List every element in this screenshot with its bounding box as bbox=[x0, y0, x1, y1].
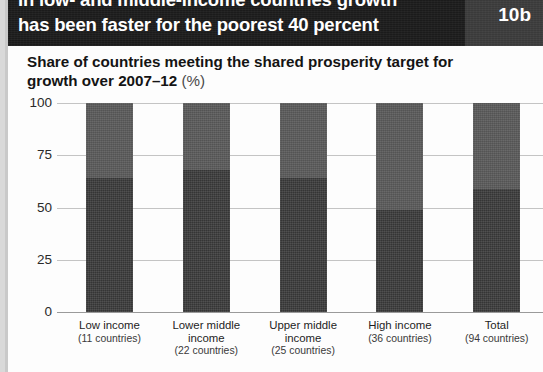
x-axis-label-total: Total(94 countries) bbox=[445, 319, 543, 345]
bar-segment-not-meeting-target bbox=[280, 103, 327, 178]
x-axis-label-name: Total bbox=[485, 319, 509, 331]
x-axis-label-count: (25 countries) bbox=[271, 345, 335, 356]
bar-segment-meeting-target bbox=[280, 178, 327, 312]
figure-header-band: In low- and middle-income countries grow… bbox=[8, 0, 543, 46]
x-axis-label-count: (94 countries) bbox=[465, 333, 529, 344]
bar-lower-middle-income bbox=[183, 103, 230, 312]
y-axis-tick-label-25: 25 bbox=[12, 252, 52, 267]
page-edge-shadow bbox=[5, 0, 8, 372]
bar-segment-meeting-target bbox=[183, 170, 230, 312]
bar-segment-not-meeting-target bbox=[376, 103, 423, 210]
bar-segment-not-meeting-target bbox=[86, 103, 133, 178]
figure-title-line1: In low- and middle-income countries grow… bbox=[18, 0, 397, 10]
bar-segment-not-meeting-target bbox=[183, 103, 230, 170]
y-axis-tick-label-50: 50 bbox=[12, 200, 52, 215]
x-axis-label-count: (11 countries) bbox=[78, 333, 141, 344]
gridline-0 bbox=[57, 312, 543, 313]
bar-segment-meeting-target bbox=[86, 178, 133, 312]
x-axis-label-high-income: High income(36 countries) bbox=[348, 319, 452, 345]
y-axis-tick-label-100: 100 bbox=[12, 95, 52, 110]
figure-number-label: 10b bbox=[498, 4, 531, 26]
y-axis-tick-label-0: 0 bbox=[12, 304, 52, 319]
chart-plot-area: 0255075100Low income(11 countries)Lower … bbox=[0, 0, 543, 372]
bar-segment-meeting-target bbox=[376, 210, 423, 312]
x-axis-label-lower-middle-income: Lower middle income(22 countries) bbox=[154, 319, 258, 358]
bar-total bbox=[473, 103, 520, 312]
figure-title: In low- and middle-income countries grow… bbox=[18, 0, 448, 37]
y-axis-tick-label-75: 75 bbox=[12, 147, 52, 162]
x-axis-label-low-income: Low income(11 countries) bbox=[58, 319, 162, 345]
figure-page: In low- and middle-income countries grow… bbox=[0, 0, 543, 372]
x-axis-label-upper-middle-income: Upper middle income(25 countries) bbox=[251, 319, 355, 358]
bar-high-income bbox=[376, 103, 423, 312]
page-edge-strip bbox=[0, 0, 8, 372]
x-axis-label-name: Lower middle income bbox=[172, 319, 240, 344]
x-axis-label-name: High income bbox=[368, 319, 431, 331]
figure-number-badge: 10b bbox=[465, 0, 543, 46]
bar-segment-not-meeting-target bbox=[473, 103, 520, 189]
x-axis-label-name: Upper middle income bbox=[269, 319, 337, 344]
x-axis-label-count: (36 countries) bbox=[368, 333, 432, 344]
x-axis-label-count: (22 countries) bbox=[175, 345, 239, 356]
figure-title-line2: has been faster for the poorest 40 perce… bbox=[18, 14, 379, 35]
bar-segment-meeting-target bbox=[473, 189, 520, 312]
bar-low-income bbox=[86, 103, 133, 312]
x-axis-label-name: Low income bbox=[79, 319, 140, 331]
bar-upper-middle-income bbox=[280, 103, 327, 312]
